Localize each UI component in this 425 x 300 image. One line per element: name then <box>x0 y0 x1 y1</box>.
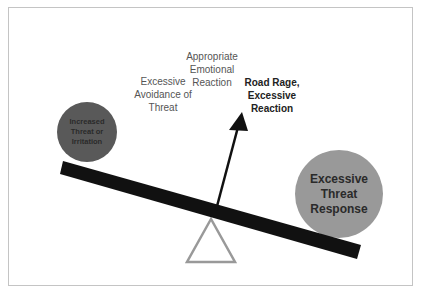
seesaw-diagram <box>0 0 425 300</box>
right-weight-label: Excessive Threat Response <box>298 172 380 217</box>
arrow-shaft <box>216 127 238 210</box>
label-appropriate-reaction: Appropriate Emotional Reaction <box>180 50 244 89</box>
fulcrum-triangle <box>187 219 235 262</box>
label-road-rage: Road Rage, Excessive Reaction <box>240 76 304 115</box>
left-weight-label: Increased Threat or Irritation <box>62 117 112 147</box>
